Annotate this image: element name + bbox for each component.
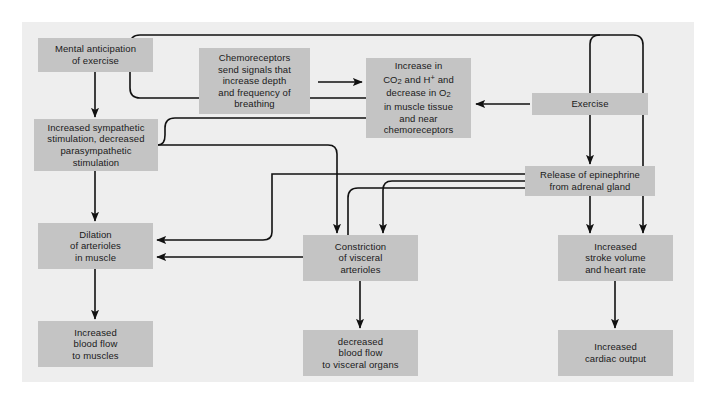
node-label: Release of epinephrine from adrenal glan… bbox=[540, 169, 640, 192]
node-label: Dilation of arterioles in muscle bbox=[70, 229, 121, 264]
node-dilation-arterioles[interactable]: Dilation of arterioles in muscle bbox=[38, 223, 153, 269]
node-chemoreceptors[interactable]: Chemoreceptors send signals that increas… bbox=[199, 48, 310, 114]
node-label: Exercise bbox=[571, 98, 608, 110]
node-label: Chemoreceptors send signals that increas… bbox=[218, 52, 291, 110]
node-mental-anticipation[interactable]: Mental anticipation of exercise bbox=[38, 38, 153, 72]
node-increased-blood-flow-muscles[interactable]: Increased blood flow to muscles bbox=[38, 321, 153, 367]
node-exercise[interactable]: Exercise bbox=[532, 93, 648, 115]
node-release-epinephrine[interactable]: Release of epinephrine from adrenal glan… bbox=[525, 166, 655, 196]
node-label: Increased cardiac output bbox=[585, 341, 646, 364]
node-label: Increased blood flow to muscles bbox=[72, 327, 118, 362]
flowchart-figure: Mental anticipation of exercise Increase… bbox=[0, 0, 716, 400]
node-constriction-visceral[interactable]: Constriction of visceral arterioles bbox=[303, 235, 418, 281]
node-increased-sympathetic[interactable]: Increased sympathetic stimulation, decre… bbox=[34, 119, 158, 171]
node-label: Constriction of visceral arterioles bbox=[335, 241, 386, 276]
node-label: Increased stroke volume and heart rate bbox=[585, 241, 646, 276]
node-label: Mental anticipation of exercise bbox=[55, 43, 136, 66]
node-increased-stroke-volume[interactable]: Increased stroke volume and heart rate bbox=[558, 235, 673, 281]
node-label: Increase inCO2 and H+ anddecrease in O2i… bbox=[383, 60, 454, 136]
node-label: Increased sympathetic stimulation, decre… bbox=[47, 122, 144, 168]
node-decreased-blood-flow-visceral[interactable]: decreased blood flow to visceral organs bbox=[303, 330, 418, 376]
node-increase-co2[interactable]: Increase inCO2 and H+ anddecrease in O2i… bbox=[366, 58, 471, 138]
node-label: decreased blood flow to visceral organs bbox=[322, 336, 398, 371]
node-increased-cardiac-output[interactable]: Increased cardiac output bbox=[558, 330, 673, 376]
